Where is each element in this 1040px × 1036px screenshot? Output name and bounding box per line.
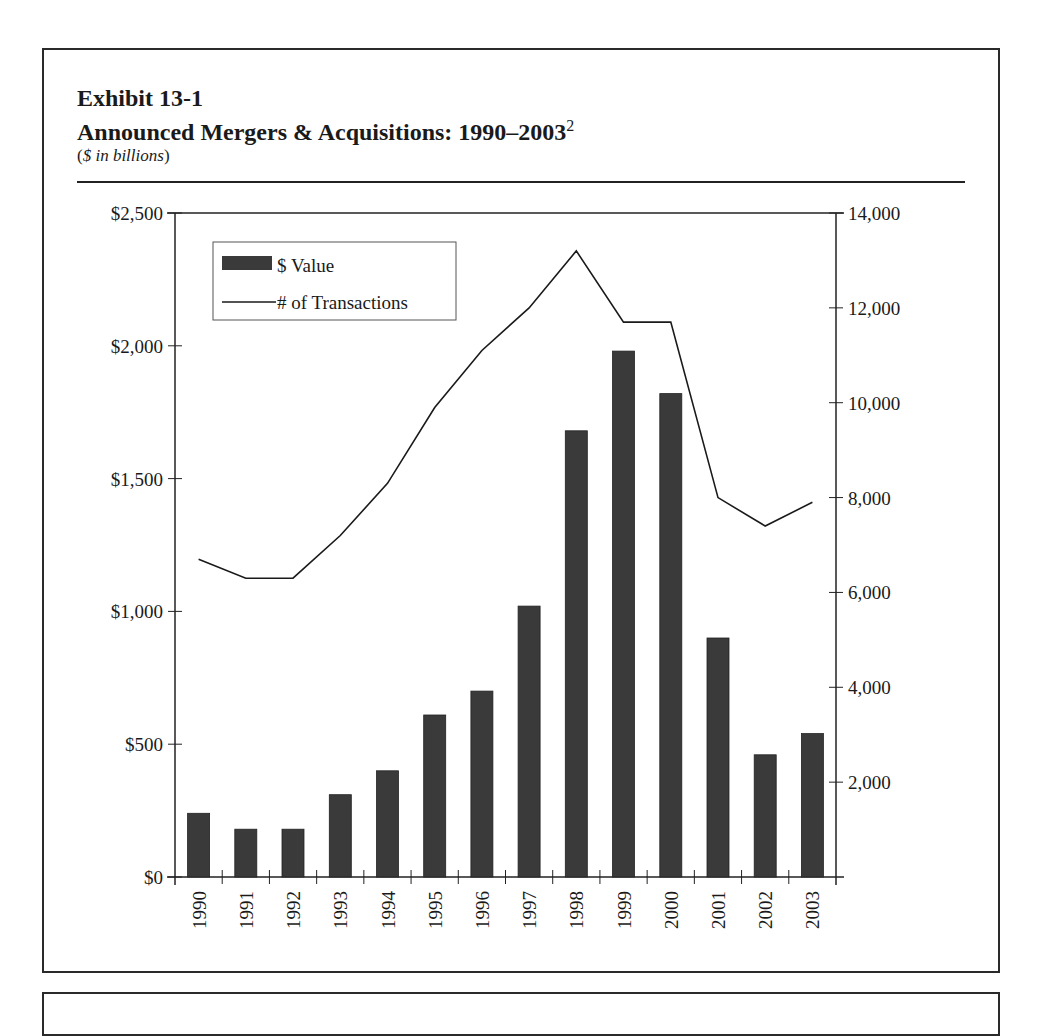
value-bar: [707, 638, 729, 877]
value-bar: [235, 829, 257, 877]
x-tick-label: 1998: [566, 891, 587, 929]
x-tick-label: 1999: [614, 891, 635, 929]
legend-label-value: $ Value: [277, 255, 334, 276]
left-tick-label: $500: [125, 734, 163, 755]
left-tick-label: $2,000: [111, 336, 163, 357]
left-tick-label: $0: [144, 867, 163, 888]
x-tick-label: 2000: [661, 891, 682, 929]
x-tick-label: 1997: [519, 891, 540, 929]
value-bar: [188, 813, 210, 877]
x-tick-label: 2003: [802, 891, 823, 929]
right-tick-label: 2,000: [848, 772, 891, 793]
value-bar: [660, 394, 682, 877]
value-bar: [329, 795, 351, 877]
value-bar: [565, 431, 587, 877]
value-bar: [613, 351, 635, 877]
value-bars: [188, 351, 824, 877]
right-tick-label: 14,000: [848, 203, 900, 224]
x-tick-label: 1990: [189, 891, 210, 929]
x-tick-label: 2001: [708, 891, 729, 929]
legend-label-transactions: # of Transactions: [277, 292, 408, 313]
x-tick-label: 1996: [472, 891, 493, 929]
right-tick-label: 6,000: [848, 582, 891, 603]
left-tick-label: $2,500: [111, 203, 163, 224]
right-tick-label: 8,000: [848, 488, 891, 509]
right-tick-label: 4,000: [848, 677, 891, 698]
x-tick-label: 1995: [425, 891, 446, 929]
value-bar: [801, 734, 823, 877]
value-bar: [518, 606, 540, 877]
x-tick-label: 2002: [755, 891, 776, 929]
x-tick-label: 1991: [236, 891, 257, 929]
value-bar: [424, 715, 446, 877]
value-bar: [471, 691, 493, 877]
chart-legend: $ Value # of Transactions: [213, 242, 456, 320]
left-tick-label: $1,000: [111, 601, 163, 622]
x-tick-label: 1994: [378, 891, 399, 930]
value-bar: [282, 829, 304, 877]
bar-swatch-icon: [222, 256, 272, 270]
x-tick-label: 1993: [330, 891, 351, 929]
left-tick-label: $1,500: [111, 469, 163, 490]
value-bar: [377, 771, 399, 877]
x-tick-label: 1992: [283, 891, 304, 929]
right-tick-label: 12,000: [848, 298, 900, 319]
value-bar: [754, 755, 776, 877]
right-tick-label: 10,000: [848, 393, 900, 414]
